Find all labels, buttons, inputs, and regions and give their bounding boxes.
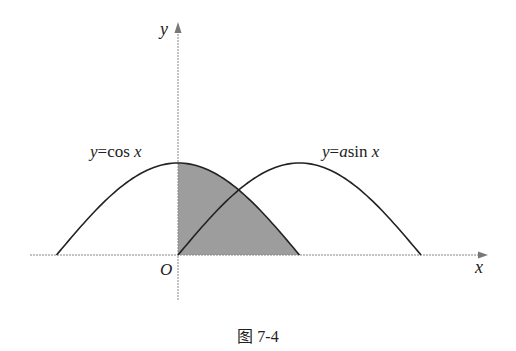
y-axis-label: y xyxy=(158,19,168,39)
cos-curve-label: y=cos x xyxy=(88,142,142,161)
origin-label: O xyxy=(160,260,172,279)
figure-caption: 图 7-4 xyxy=(0,323,516,347)
shaded-region xyxy=(178,163,300,255)
asin-curve-label: y=asin x xyxy=(320,142,380,161)
x-axis-label: x xyxy=(474,257,483,277)
math-figure: y x O y=cos x y=asin x xyxy=(0,0,516,351)
y-axis-arrow-icon xyxy=(175,22,182,33)
